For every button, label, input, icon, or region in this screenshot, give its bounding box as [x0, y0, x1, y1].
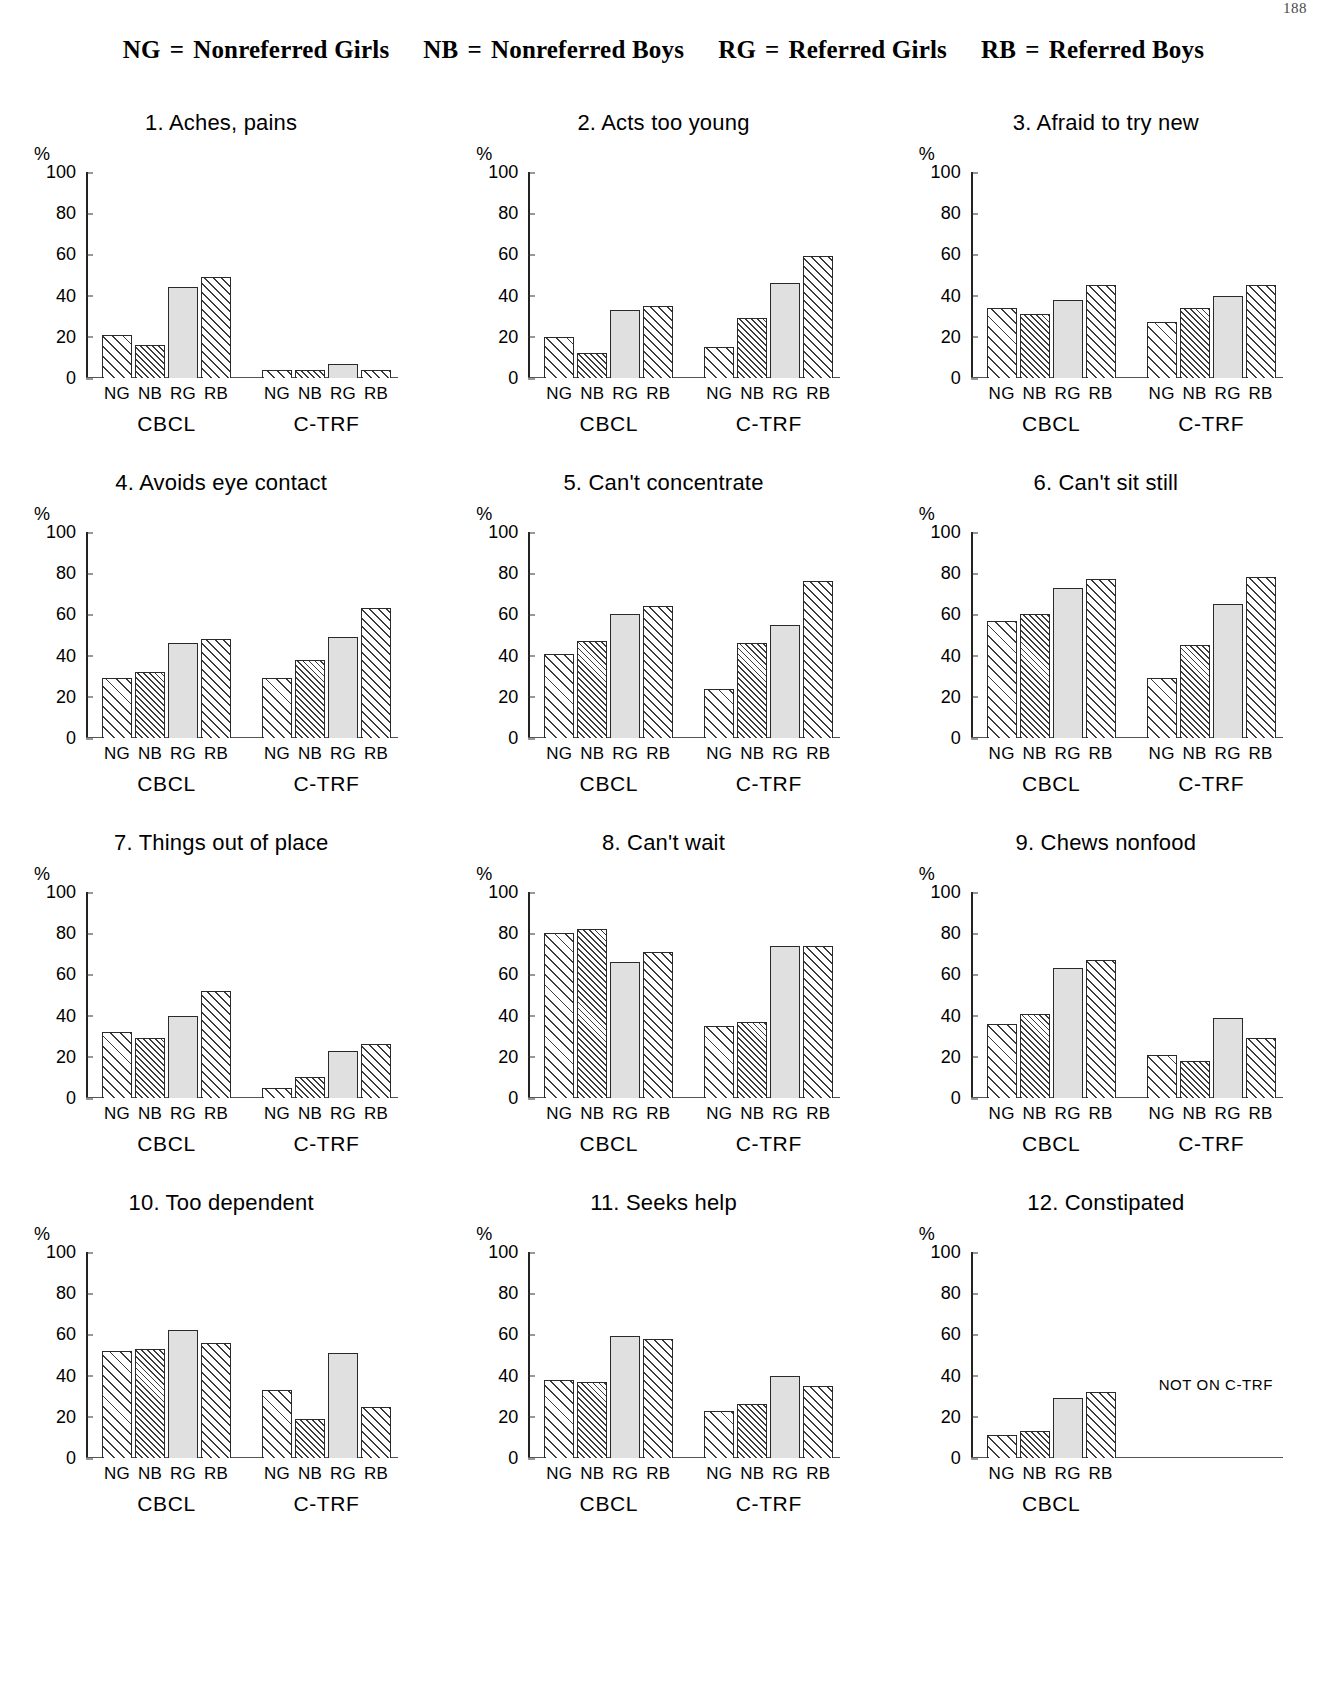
y-tick-text: 0 [66, 1448, 76, 1468]
y-tick-text: 20 [498, 1046, 518, 1066]
legend-desc-rg: Referred Girls [789, 36, 948, 64]
y-tick-text: 100 [46, 882, 76, 902]
group-label-cbcl: CBCL [137, 412, 195, 436]
x-tick-label-rg: RG [1053, 1464, 1083, 1484]
group-label-ctrf: C-TRF [736, 1132, 802, 1156]
bar-cbcl-nb [135, 1349, 165, 1458]
y-tick-text: 40 [56, 1365, 76, 1385]
y-axis-tick-label: 80 [56, 1283, 86, 1304]
bar-cbcl-nb [577, 641, 607, 738]
group-label-ctrf: C-TRF [736, 1492, 802, 1516]
chart-title: 10. Too dependent [0, 1190, 442, 1216]
y-tick-mark [971, 378, 978, 379]
bars-container [86, 892, 396, 1098]
group-label-ctrf: C-TRF [294, 412, 360, 436]
x-tick-label-nb: NB [1180, 744, 1210, 764]
y-tick-text: 0 [508, 728, 518, 748]
y-axis-tick-label: 100 [931, 522, 971, 543]
x-tick-label-ng: NG [102, 384, 132, 404]
x-tick-label-rg: RG [610, 1464, 640, 1484]
y-tick-text: 40 [498, 285, 518, 305]
group-labels: CBCLC-TRF [86, 412, 398, 438]
bar-cbcl-nb [1020, 614, 1050, 738]
x-tick-label-rb: RB [361, 1464, 391, 1484]
y-axis-tick-label: 80 [56, 563, 86, 584]
x-tick-label-ng: NG [704, 1464, 734, 1484]
bar-ctrf-rb [803, 256, 833, 378]
x-tick-label-rb: RB [201, 384, 231, 404]
group-label-cbcl: CBCL [137, 1132, 195, 1156]
x-tick-label-rg: RG [610, 384, 640, 404]
group-label-cbcl: CBCL [580, 772, 638, 796]
x-tick-label-rb: RB [361, 1104, 391, 1124]
bar-cbcl-nb [135, 672, 165, 738]
x-tick-label-nb: NB [737, 744, 767, 764]
x-tick-label-rb: RB [1246, 384, 1276, 404]
chart-title: 4. Avoids eye contact [0, 470, 442, 496]
x-tick-label-ng: NG [102, 1464, 132, 1484]
y-tick-text: 0 [508, 1088, 518, 1108]
bar-ctrf-ng [262, 678, 292, 738]
x-axis-labels: NGNBRGRBNGNBRGRB [528, 384, 840, 408]
y-axis-tick-label: 60 [56, 964, 86, 985]
y-axis-tick-label: 20 [941, 686, 971, 707]
bar-ctrf-ng [704, 1411, 734, 1458]
bar-cbcl-nb [135, 345, 165, 378]
y-tick-text: 0 [951, 728, 961, 748]
y-axis-tick-label: 20 [941, 1046, 971, 1067]
group-label-ctrf: C-TRF [294, 772, 360, 796]
bar-cbcl-nb [577, 929, 607, 1098]
chart-title: 3. Afraid to try new [885, 110, 1327, 136]
y-axis-tick-label: 0 [66, 368, 86, 389]
y-tick-text: 20 [56, 326, 76, 346]
bar-cbcl-rg [1053, 968, 1083, 1098]
x-tick-label-ng: NG [1147, 384, 1177, 404]
bar-ctrf-ng [704, 689, 734, 738]
y-tick-text: 60 [498, 1324, 518, 1344]
bar-cbcl-rb [1086, 285, 1116, 378]
x-tick-label-rg: RG [1213, 744, 1243, 764]
page-number: 188 [1283, 0, 1307, 17]
bar-cbcl-rg [168, 1016, 198, 1098]
x-tick-label-ng: NG [544, 1104, 574, 1124]
bar-ctrf-rb [1246, 285, 1276, 378]
x-tick-label-ng: NG [262, 1464, 292, 1484]
x-tick-label-nb: NB [135, 744, 165, 764]
y-axis-tick-label: 20 [498, 1046, 528, 1067]
legend-desc-rb: Referred Boys [1049, 36, 1205, 64]
y-tick-text: 40 [941, 285, 961, 305]
y-axis-tick-label: 20 [56, 686, 86, 707]
y-tick-text: 100 [46, 162, 76, 182]
x-tick-label-rg: RG [1053, 384, 1083, 404]
legend: NG = Nonreferred Girls NB = Nonreferred … [0, 36, 1327, 64]
legend-entry-rg: RG = Referred Girls [718, 36, 947, 64]
y-tick-text: 60 [498, 964, 518, 984]
y-axis-tick-label: 40 [498, 645, 528, 666]
bar-ctrf-nb [737, 318, 767, 378]
group-labels: CBCLC-TRF [86, 1132, 398, 1158]
plot-area: 100806040200 [86, 172, 396, 378]
x-axis-labels: NGNBRGRBNGNBRGRB [86, 1104, 398, 1128]
bar-ctrf-nb [295, 1419, 325, 1458]
y-tick-text: 0 [951, 368, 961, 388]
group-label-ctrf: C-TRF [736, 772, 802, 796]
y-tick-text: 100 [488, 522, 518, 542]
plot-area: 100806040200 [971, 172, 1281, 378]
group-labels: CBCLC-TRF [971, 1132, 1283, 1158]
y-axis-tick-label: 60 [498, 244, 528, 265]
y-axis-tick-label: 40 [941, 1005, 971, 1026]
plot-area: 100806040200 [86, 1252, 396, 1458]
y-tick-mark [86, 1098, 93, 1099]
plot-area: 100806040200 [971, 532, 1281, 738]
y-tick-text: 0 [508, 368, 518, 388]
y-tick-text: 80 [498, 923, 518, 943]
bar-cbcl-rg [1053, 1398, 1083, 1458]
y-tick-text: 60 [498, 604, 518, 624]
y-axis-tick-label: 20 [498, 326, 528, 347]
x-tick-label-rb: RB [803, 744, 833, 764]
x-tick-label-nb: NB [1020, 384, 1050, 404]
y-tick-text: 80 [941, 1283, 961, 1303]
x-tick-label-rg: RG [770, 1464, 800, 1484]
bar-cbcl-ng [987, 621, 1017, 738]
legend-code-nb: NB [423, 36, 458, 64]
